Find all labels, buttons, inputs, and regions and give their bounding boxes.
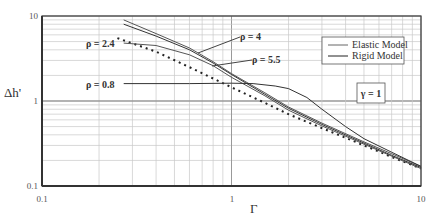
- x-tick-1: 1: [230, 194, 235, 204]
- gamma-label: γ = 1: [360, 88, 381, 99]
- leader-rho-4: [198, 37, 240, 53]
- y-axis-label: Δh': [4, 85, 21, 100]
- legend-rigid-label: Rigid Model: [352, 50, 403, 61]
- x-tick-0.1: 0.1: [36, 194, 47, 204]
- legend-elastic-label: Elastic Model: [352, 39, 408, 50]
- annotation-rho-0.8: ρ = 0.8: [86, 79, 115, 90]
- y-tick-1: 1: [34, 96, 39, 106]
- annotation-rho-5.5: ρ = 5.5: [252, 54, 281, 65]
- y-tick-0.1: 0.1: [27, 181, 38, 191]
- annotation-rho-4: ρ = 4: [240, 31, 261, 42]
- y-tick-10: 10: [29, 11, 39, 21]
- x-tick-10: 10: [417, 194, 427, 204]
- annotation-rho-2.4: ρ = 2.4: [86, 38, 115, 49]
- x-axis-label: Γ: [250, 201, 258, 216]
- chart: 10 1 0.1 0.1 1 10 Δh' Γ ρ = 4 ρ = 5.5 ρ …: [0, 0, 434, 220]
